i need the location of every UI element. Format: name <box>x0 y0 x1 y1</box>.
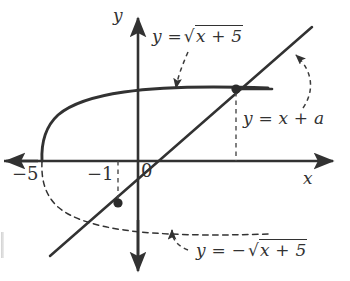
math-figure: y x 0 −5 −1 y =√x + 5 y = x + a y = −√x … <box>0 0 350 281</box>
curve-upper-sqrt <box>42 87 268 161</box>
radical-symbol-lower: √ <box>248 240 259 260</box>
edge-artifact <box>1 232 4 258</box>
radical-symbol-upper: √ <box>184 26 195 46</box>
point-lower-intersection <box>113 198 122 207</box>
point-upper-intersection <box>231 84 240 93</box>
label-lower-curve-equation: y = −√x + 5 <box>196 239 307 260</box>
radicand-upper: x + 5 <box>195 25 243 46</box>
radicand-lower: x + 5 <box>259 239 307 260</box>
radical-upper: √x + 5 <box>182 25 244 46</box>
curve-lower-sqrt <box>42 161 268 235</box>
line-y-equals-x-plus-a <box>50 27 312 256</box>
callout-arrow-line <box>296 55 311 108</box>
label-upper-curve-equation: y =√x + 5 <box>152 25 243 46</box>
x-axis-label: x <box>303 168 313 188</box>
origin-label: 0 <box>141 160 152 181</box>
tick-label-minus-5: −5 <box>12 163 39 184</box>
label-upper-lhs: y = <box>152 26 182 46</box>
label-lower-lhs: y = − <box>196 240 246 260</box>
tick-label-minus-1: −1 <box>87 163 114 184</box>
callout-arrow-lower-curve <box>172 230 188 250</box>
label-line-equation: y = x + a <box>243 108 324 128</box>
callout-arrow-upper-curve <box>176 52 188 88</box>
radical-lower: √x + 5 <box>246 239 308 260</box>
y-axis-label: y <box>113 5 123 25</box>
